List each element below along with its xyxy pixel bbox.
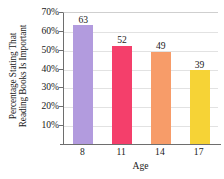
bar-value-label: 39 (195, 60, 205, 70)
y-axis-tick-label: 20% (28, 101, 59, 111)
y-axis-tick-label: 60% (28, 26, 59, 36)
bar: 49 (151, 52, 171, 144)
y-axis-title-line-1: Percentage Stating That (8, 33, 18, 119)
bar: 39 (190, 70, 210, 144)
y-axis-tick-mark (59, 125, 63, 126)
y-axis-tick-label: 30% (28, 83, 59, 93)
x-axis-tick-label: 11 (117, 147, 126, 157)
y-axis-tick-mark (59, 12, 63, 13)
bar-value-label: 63 (79, 15, 89, 25)
y-axis-tick-label: 40% (28, 64, 59, 74)
y-axis-tick-mark (59, 106, 63, 107)
bar: 63 (73, 25, 93, 144)
y-axis-tick-mark (59, 69, 63, 70)
y-axis-tick-mark (59, 31, 63, 32)
bar-value-label: 49 (156, 41, 166, 51)
y-axis-tick-mark (59, 50, 63, 51)
y-axis-title-line-2: Reading Books Is Important (18, 25, 28, 128)
x-axis-tick-label: 17 (194, 147, 204, 157)
x-axis-tick-label: 14 (155, 147, 165, 157)
bar-value-label: 52 (117, 35, 127, 45)
y-axis-tick-label: 10% (28, 120, 59, 130)
y-axis-tick-mark (59, 87, 63, 88)
x-axis-tick-label: 8 (80, 147, 85, 157)
bar: 52 (112, 46, 132, 144)
y-axis-tick-labels: 10%20%30%40%50%60%70% (28, 12, 59, 144)
y-axis-tick-label: 50% (28, 45, 59, 55)
x-axis-line (60, 144, 221, 145)
x-axis-title: Age (63, 161, 218, 171)
x-axis-tick-labels: 8111417 (63, 147, 218, 160)
plot-area: 63524939 (63, 12, 218, 144)
bar-chart: Percentage Stating That Reading Books Is… (0, 0, 224, 179)
y-axis-tick-label: 70% (28, 7, 59, 17)
